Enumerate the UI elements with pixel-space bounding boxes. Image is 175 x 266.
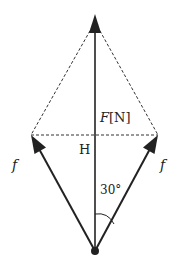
resultant-label: F[N] <box>100 111 131 124</box>
resultant-symbol: F <box>100 110 109 125</box>
origin-point <box>91 247 99 255</box>
diagram-graphics <box>0 0 175 266</box>
force-diagram: F[N] H f f 30° <box>0 0 175 266</box>
left-force-label: f <box>12 158 17 172</box>
resultant-force-arrow <box>89 14 101 251</box>
resultant-unit: [N] <box>109 110 131 125</box>
right-force-label: f <box>160 158 165 172</box>
angle-label: 30° <box>100 184 121 196</box>
center-label-h: H <box>79 143 90 156</box>
